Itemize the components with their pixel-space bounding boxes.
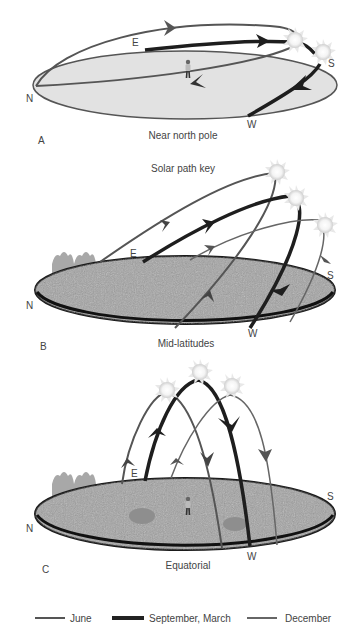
panel-b-east-label: E xyxy=(130,248,137,259)
panel-a-south-label: S xyxy=(328,58,335,69)
legend-item-june: June xyxy=(35,610,92,626)
panel-c-south-label: S xyxy=(327,491,334,502)
panel-c-equatorial xyxy=(35,359,335,550)
panel-b-key-title: Solar path key xyxy=(151,163,215,174)
legend-line-equinox xyxy=(112,616,144,620)
panel-b-sun-june xyxy=(265,159,290,185)
panel-b-caption: Mid-latitudes xyxy=(158,338,215,349)
panel-c-north-label: N xyxy=(26,523,33,534)
legend-item-equinox: September, March xyxy=(112,610,231,626)
panel-a-north-label: N xyxy=(26,93,33,104)
panel-a-letter: A xyxy=(38,135,45,146)
legend-label-june: June xyxy=(70,613,92,624)
legend-label-december: December xyxy=(285,613,331,624)
panel-b-north-label: N xyxy=(26,300,33,311)
panel-c-east-label: E xyxy=(131,468,138,479)
panel-c-west-label: W xyxy=(247,551,256,562)
panel-b-west-label: W xyxy=(248,328,257,339)
panel-b-south-label: S xyxy=(327,270,334,281)
panel-c-letter: C xyxy=(42,564,49,575)
legend-item-december: December xyxy=(247,610,331,626)
legend-line-december xyxy=(247,617,277,619)
panel-a-caption: Near north pole xyxy=(149,130,218,141)
panel-a-ground xyxy=(33,51,337,119)
panel-a-east-label: E xyxy=(132,37,139,48)
panel-c-caption: Equatorial xyxy=(165,560,210,571)
panel-b-letter: B xyxy=(40,341,47,352)
panel-b-mid-latitudes xyxy=(35,159,338,328)
panel-a-west-label: W xyxy=(247,119,256,130)
legend-line-june xyxy=(35,617,65,619)
legend-label-equinox: September, March xyxy=(149,613,231,624)
panel-a-near-north-pole xyxy=(33,20,337,119)
legend: June September, March December xyxy=(0,610,357,626)
panel-c-sun-december xyxy=(220,373,245,399)
panel-b-sun-december xyxy=(313,212,338,238)
solar-path-diagram xyxy=(0,0,357,634)
